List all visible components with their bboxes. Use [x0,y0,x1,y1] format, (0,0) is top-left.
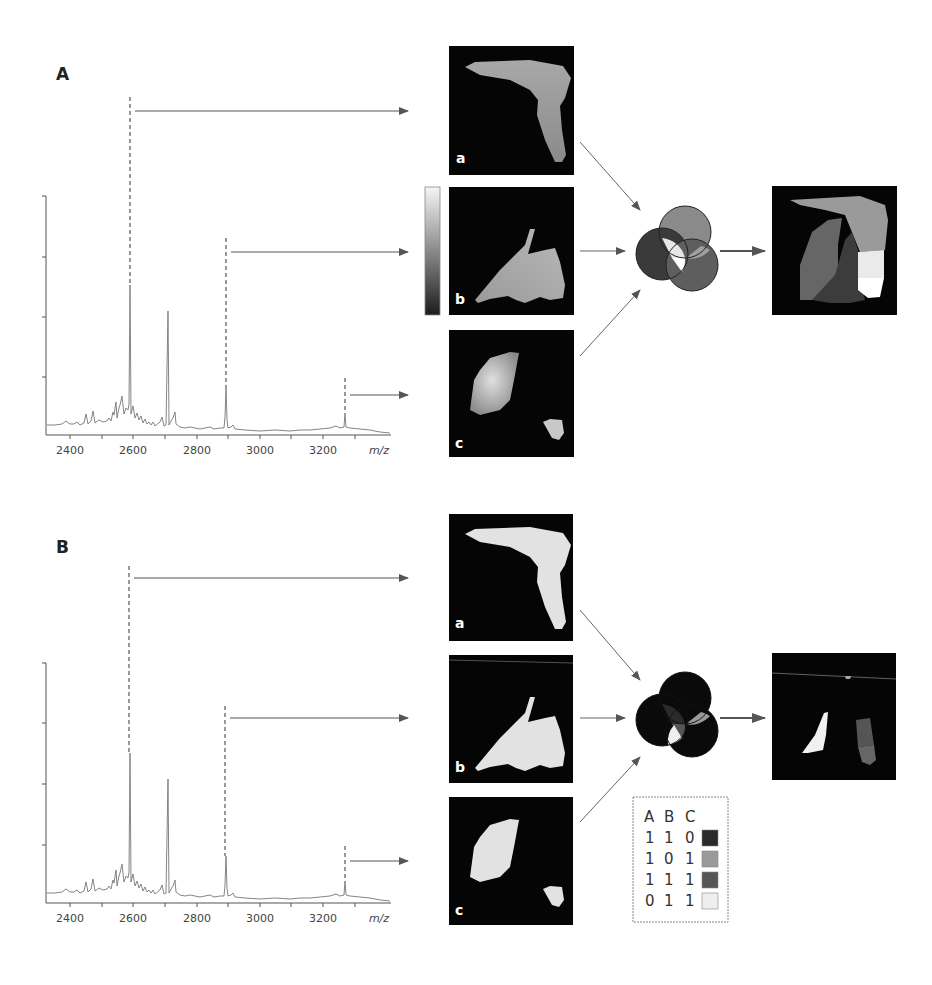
x-tick-label: 3200 [309,444,337,457]
arrows-images-to-venn-b [580,610,640,822]
svg-text:C: C [685,808,695,826]
combined-image-b [772,653,896,780]
spectrum-chart-b: 2400 2600 2800 3000 3200 m/z [42,566,391,925]
venn-diagram-b [636,672,718,757]
combined-image-a [772,186,897,315]
svg-text:1: 1 [645,829,655,847]
svg-text:1: 1 [685,850,695,868]
panel-label-b: B [56,537,69,557]
venn-diagram-a [636,206,718,291]
x-tick-label: 2600 [119,444,147,457]
svg-text:0: 0 [645,892,655,910]
spectrum-chart-a: 2400 2600 2800 3000 3200 m/z [42,97,391,457]
x-tick-label: 2800 [183,912,211,925]
panel-b: B 2400 2600 2800 [42,514,896,925]
arrows-spectrum-to-images-a [135,111,408,395]
svg-text:1: 1 [664,871,674,889]
svg-text:1: 1 [685,871,695,889]
x-tick-label: 3000 [246,912,274,925]
selected-peak-markers-b [129,566,345,881]
x-tick-label: 2400 [56,912,84,925]
ion-image-a: a [449,46,574,175]
image-label: b [455,291,465,307]
image-label: c [455,902,463,918]
svg-text:1: 1 [645,850,655,868]
image-label: a [456,150,465,166]
svg-text:1: 1 [664,892,674,910]
legend-swatch [702,893,718,909]
legend-swatch [702,830,718,846]
svg-text:1: 1 [645,871,655,889]
legend-swatch [702,872,718,888]
svg-text:0: 0 [685,829,695,847]
intensity-colorbar [425,187,440,315]
spectrum-trace-b [47,753,390,901]
binary-image-b: b [449,655,573,783]
spectrum-trace-a [47,285,390,433]
selected-peak-markers-a [130,97,345,413]
x-tick-label: 3000 [246,444,274,457]
svg-text:1: 1 [664,829,674,847]
legend-swatch [702,851,718,867]
x-tick-label: 2800 [183,444,211,457]
ion-image-c: c [449,330,574,457]
svg-text:A: A [644,808,655,826]
image-label: c [455,435,463,451]
image-label: b [455,759,465,775]
svg-text:1: 1 [685,892,695,910]
x-tick-label: 3200 [309,912,337,925]
x-tick-label: 2400 [56,444,84,457]
venn-legend: A B C 1 1 0 1 0 1 1 1 1 0 1 1 [633,797,728,922]
figure: A 2400 2600 2800 [0,0,932,985]
arrows-spectrum-to-images-b [134,578,408,861]
ion-image-b: b [449,187,574,315]
arrows-images-to-venn-a [580,142,640,356]
panel-label-a: A [56,64,70,84]
x-axis-label: m/z [369,912,389,925]
image-label: a [455,615,464,631]
x-axis-label: m/z [369,444,389,457]
x-tick-label: 2600 [119,912,147,925]
svg-text:0: 0 [664,850,674,868]
svg-text:B: B [664,808,674,826]
binary-image-a: a [449,514,573,641]
binary-image-c: c [449,797,573,925]
panel-a: A 2400 2600 2800 [42,46,897,457]
